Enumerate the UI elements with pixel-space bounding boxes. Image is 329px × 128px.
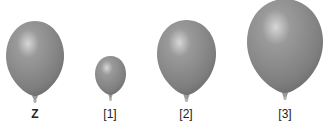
balloon-3-label: [3] bbox=[270, 107, 300, 121]
balloon-z bbox=[5, 20, 65, 104]
balloon-2-label: [2] bbox=[171, 107, 201, 121]
balloon-3 bbox=[246, 0, 324, 102]
balloon-1 bbox=[94, 55, 127, 103]
balloon-z-label: Z bbox=[20, 107, 50, 121]
balloon-2 bbox=[156, 19, 217, 103]
balloon-1-label: [1] bbox=[95, 107, 125, 121]
